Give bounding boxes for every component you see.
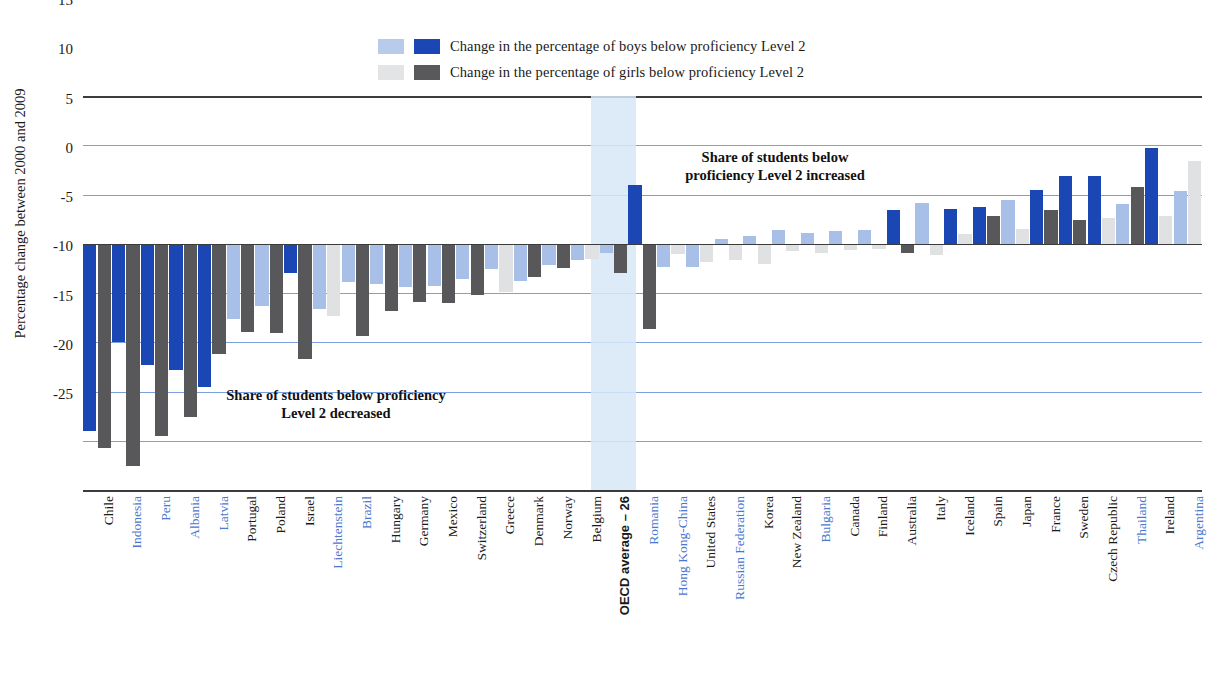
bar-group (513, 96, 542, 490)
bar-group (599, 96, 628, 490)
bar-series-container (83, 96, 1202, 490)
x-tick-label: New Zealand (789, 496, 805, 568)
bar-boys (1088, 176, 1101, 244)
bar-girls (585, 244, 598, 259)
bar-group (112, 96, 141, 490)
bar-girls (356, 244, 369, 337)
bar-girls (413, 244, 426, 302)
bar-boys (112, 244, 125, 343)
legend-swatch-girls-pale (378, 65, 404, 80)
bar-group (456, 96, 485, 490)
bar-group (370, 96, 399, 490)
bar-group (1145, 96, 1174, 490)
bar-girls (958, 234, 971, 244)
bar-boys (227, 244, 240, 319)
bar-group (140, 96, 169, 490)
legend-item-girls: Change in the percentage of girls below … (378, 59, 1018, 85)
annotation-increased-line2: proficiency Level 2 increased (650, 166, 900, 184)
x-tick-label: Hungary (388, 496, 404, 543)
bar-boys (198, 244, 211, 387)
bar-girls (1131, 187, 1144, 244)
bar-group (571, 96, 600, 490)
bar-girls (614, 244, 627, 274)
x-tick-label: Brazil (359, 496, 375, 529)
x-tick-label: Belgium (589, 496, 605, 543)
bar-girls (385, 244, 398, 311)
annotation-decreased-line1: Share of students below proficiency (186, 386, 486, 404)
bar-boys (399, 244, 412, 287)
y-tick-label--5: -5 (61, 189, 74, 206)
bar-boys (973, 207, 986, 243)
bar-boys (255, 244, 268, 306)
y-axis: Percentage change between 2000 and 2009 … (0, 0, 83, 490)
bar-boys (313, 244, 326, 309)
bar-group (1059, 96, 1088, 490)
x-tick-label: Australia (904, 496, 920, 546)
x-tick-label: Ireland (1162, 496, 1178, 534)
bar-girls (758, 244, 771, 265)
bar-girls (241, 244, 254, 333)
bar-boys (829, 231, 842, 244)
x-tick-label: Sweden (1076, 496, 1092, 539)
bar-group (341, 96, 370, 490)
x-tick-label: Liechtenstein (330, 496, 346, 569)
bar-boys (628, 185, 641, 244)
bar-boys (141, 244, 154, 365)
bar-boys (1059, 176, 1072, 244)
legend-label-boys: Change in the percentage of boys below p… (450, 38, 806, 55)
bar-boys (915, 203, 928, 243)
bar-girls (557, 244, 570, 269)
bar-girls (126, 244, 139, 467)
bar-boys (542, 244, 555, 266)
bar-group (1030, 96, 1059, 490)
x-tick-label: Finland (875, 496, 891, 537)
bar-boys (772, 230, 785, 244)
bar-girls (729, 244, 742, 260)
x-tick-label: France (1048, 496, 1064, 533)
x-tick-label: Latvia (216, 496, 232, 530)
x-tick-label: Albania (187, 496, 203, 539)
bar-group (198, 96, 227, 490)
x-tick-label: Chile (101, 496, 117, 525)
bar-boys (514, 244, 527, 281)
annotation-decreased-line2: Level 2 decreased (186, 404, 486, 422)
bar-boys (370, 244, 383, 284)
bar-boys (83, 244, 96, 431)
bar-boys (887, 210, 900, 243)
x-tick-label: Norway (560, 496, 576, 540)
annotation-increased-line1: Share of students below (650, 148, 900, 166)
bar-boys (1001, 200, 1014, 243)
bar-girls (270, 244, 283, 334)
bar-boys (485, 244, 498, 270)
x-axis-labels: ChileIndonesiaPeruAlbaniaLatviaPortugalP… (83, 496, 1202, 676)
legend-swatch-boys-pale (378, 39, 404, 54)
y-tick-label-10: 10 (58, 41, 73, 58)
legend-swatch-boys-dark (414, 39, 440, 54)
bar-boys (342, 244, 355, 282)
bar-group (542, 96, 571, 490)
x-tick-label: Korea (761, 496, 777, 529)
y-tick-label--20: -20 (53, 336, 73, 353)
y-tick-label-0: 0 (66, 139, 74, 156)
bar-group (944, 96, 973, 490)
x-tick-label: Greece (502, 496, 518, 534)
bar-group (284, 96, 313, 490)
y-axis-title: Percentage change between 2000 and 2009 (12, 49, 29, 379)
bar-girls (442, 244, 455, 303)
bar-boys (169, 244, 182, 370)
x-tick-label: Hong Kong-China (675, 496, 691, 596)
x-tick-label: Poland (273, 496, 289, 534)
x-tick-label: Thailand (1134, 496, 1150, 544)
bar-group (427, 96, 456, 490)
bar-group (972, 96, 1001, 490)
y-tick-label-15: 15 (58, 0, 73, 9)
bar-boys (858, 230, 871, 244)
bar-group (255, 96, 284, 490)
bar-girls (1016, 229, 1029, 244)
x-tick-label: Indonesia (129, 496, 145, 548)
bar-boys (686, 244, 699, 268)
bar-girls (1073, 220, 1086, 244)
bar-girls (298, 244, 311, 359)
legend-item-boys: Change in the percentage of boys below p… (378, 33, 1018, 59)
bar-boys (1030, 190, 1043, 244)
